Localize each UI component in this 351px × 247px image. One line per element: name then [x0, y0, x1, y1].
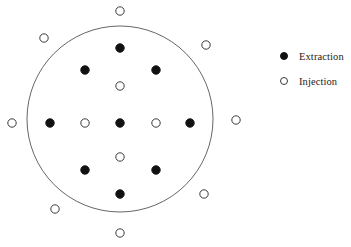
- injection-well-marker: [81, 119, 89, 127]
- injection-well-marker: [51, 205, 59, 213]
- extraction-well-marker: [116, 190, 124, 198]
- extraction-well-marker: [186, 119, 194, 127]
- legend-item-extraction: Extraction: [279, 47, 351, 67]
- legend: Extraction Injection: [279, 47, 351, 97]
- injection-well-marker: [8, 119, 16, 127]
- injection-well-marker: [200, 190, 208, 198]
- extraction-well-marker: [152, 166, 160, 174]
- legend-label-extraction: Extraction: [293, 51, 344, 63]
- injection-well-marker: [116, 82, 124, 90]
- injection-well-marker: [152, 119, 160, 127]
- extraction-well-marker: [152, 66, 160, 74]
- extraction-well-marker: [116, 44, 124, 52]
- injection-well-marker: [116, 7, 124, 15]
- injection-well-marker: [116, 153, 124, 161]
- extraction-well-marker: [81, 166, 89, 174]
- open-circle-icon: [279, 72, 293, 92]
- legend-label-injection: Injection: [293, 76, 337, 88]
- extraction-well-marker: [46, 119, 54, 127]
- extraction-wells-layer: [46, 44, 194, 198]
- well-pattern-plot: [0, 0, 351, 247]
- injection-well-marker: [202, 41, 210, 49]
- injection-well-marker: [232, 116, 240, 124]
- well-pattern-figure: Extraction Injection: [0, 0, 351, 247]
- injection-well-marker: [116, 229, 124, 237]
- extraction-well-marker: [116, 119, 124, 127]
- extraction-well-marker: [81, 66, 89, 74]
- legend-item-injection: Injection: [279, 72, 351, 92]
- injection-well-marker: [40, 34, 48, 42]
- filled-circle-icon: [279, 47, 293, 67]
